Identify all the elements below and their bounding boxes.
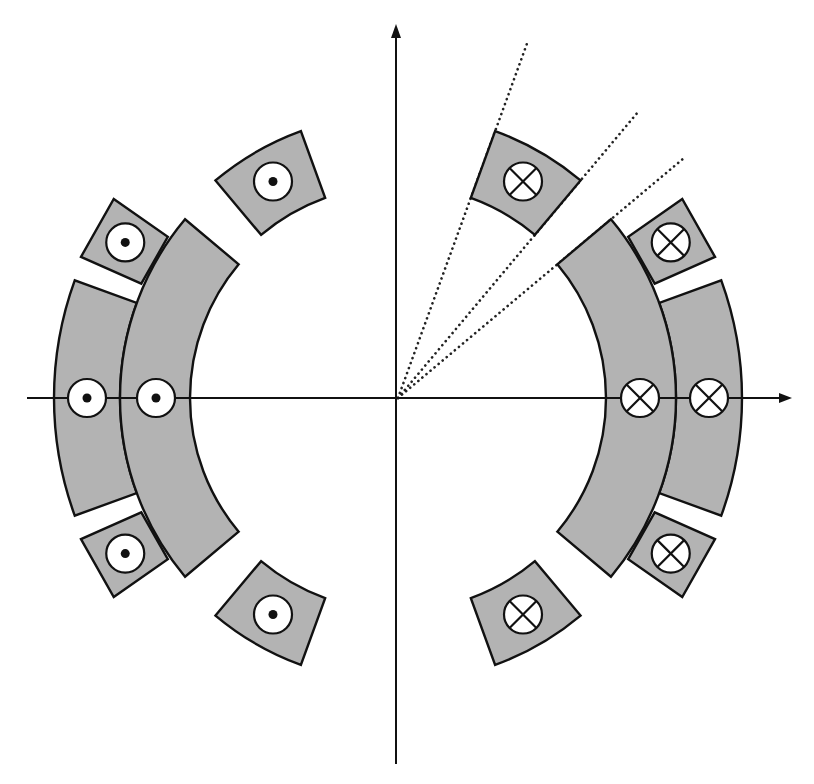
mid-block-right-upper-marker [652, 223, 690, 261]
far-block-left-lower-marker [254, 596, 292, 634]
inner-shell-left-marker [137, 379, 175, 417]
far-block-left-upper-marker [254, 162, 292, 200]
coil-cross-section-diagram [0, 0, 814, 784]
far-block-right-lower-marker [504, 596, 542, 634]
far-block-right-upper-marker [504, 162, 542, 200]
mid-block-left-upper-marker [106, 223, 144, 261]
x-axis-arrowhead-icon [779, 393, 792, 403]
outer-shell-right-marker [690, 379, 728, 417]
y-axis-arrowhead-icon [391, 24, 401, 38]
mid-block-right-lower-marker [652, 535, 690, 573]
inner-shell-right-marker [621, 379, 659, 417]
mid-block-left-lower-marker [106, 535, 144, 573]
outer-shell-left-marker [68, 379, 106, 417]
